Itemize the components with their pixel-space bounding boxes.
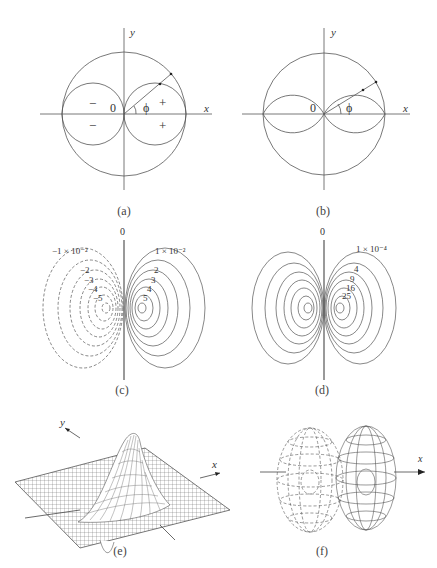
surface-plot-e: y x: [0, 400, 230, 560]
panel-e: y x (e): [0, 400, 230, 560]
contour-label: −2: [80, 265, 90, 275]
contour-plot-d: 0 1 × 10⁻⁴ 4 9 16 25: [220, 220, 437, 400]
panel-f: x (f): [230, 400, 437, 560]
sign-label: −: [89, 118, 96, 133]
x-axis-label: x: [417, 453, 423, 464]
contour-label: 5: [143, 293, 148, 303]
contour-plot-c: 0 −1 × 10⁻² −2 −3 −4 −5 1 × 10⁻² 2 3 4 5: [0, 220, 220, 400]
caption-e: (e): [100, 544, 140, 559]
origin-label: 0: [310, 101, 316, 115]
contour-label: 4: [147, 284, 152, 294]
sign-label: −: [89, 96, 96, 111]
caption-c: (c): [102, 383, 142, 398]
angle-label: ϕ: [346, 101, 352, 115]
contour-label: 25: [342, 291, 352, 301]
x-axis-label: x: [402, 102, 408, 114]
orbital-plot-f: x: [230, 400, 437, 560]
y-axis-label: y: [59, 416, 65, 428]
x-axis-label: x: [211, 458, 217, 470]
panel-a: y x 0 ϕ − + − + (a): [0, 0, 220, 220]
polar-plot-a: y x 0 ϕ − + − +: [0, 0, 220, 220]
y-axis-label: y: [129, 26, 135, 38]
contour-label: 1 × 10⁻²: [155, 246, 186, 256]
caption-d: (d): [302, 383, 342, 398]
panel-b: y x 0 ϕ (b): [220, 0, 437, 220]
x-axis-label: x: [203, 102, 209, 114]
sign-label: +: [159, 118, 166, 133]
caption-b: (b): [303, 204, 343, 219]
contour-label: 1 × 10⁻⁴: [356, 244, 387, 254]
polar-plot-b: y x 0 ϕ: [220, 0, 437, 220]
contour-label: −1 × 10⁻²: [52, 246, 88, 256]
zero-label: 0: [320, 226, 325, 237]
sign-label: +: [159, 95, 166, 110]
zero-label: 0: [120, 226, 125, 237]
origin-label: 0: [110, 101, 116, 115]
caption-a: (a): [104, 204, 144, 219]
caption-f: (f): [302, 544, 342, 559]
panel-c: 0 −1 × 10⁻² −2 −3 −4 −5 1 × 10⁻² 2 3 4 5…: [0, 220, 220, 400]
panel-d: 0 1 × 10⁻⁴ 4 9 16 25 (d): [220, 220, 437, 400]
contour-label: −5: [93, 293, 103, 303]
contour-label: 4: [354, 264, 359, 274]
y-axis-label: y: [330, 26, 336, 38]
contour-label: 2: [154, 265, 159, 275]
contour-label: 3: [151, 275, 156, 285]
angle-label: ϕ: [143, 101, 149, 115]
